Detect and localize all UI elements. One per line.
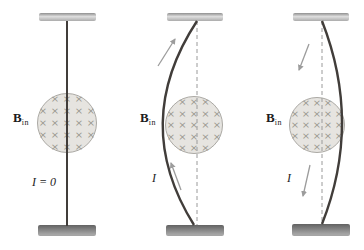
field-label-left: Bin [13, 111, 29, 127]
current-label-down: I [287, 172, 291, 184]
wires-overlay [0, 0, 364, 250]
wire-bowed-right [322, 21, 342, 224]
wire-bowed-left [163, 21, 197, 225]
field-label-B: B [13, 110, 22, 125]
figure-canvas: ××××××××××××××××××××× ××××××××××××××××××… [0, 0, 364, 250]
field-label-sub: in [275, 118, 282, 127]
current-label-up: I [152, 172, 156, 184]
field-label-sub: in [22, 118, 29, 127]
field-label-middle: Bin [140, 111, 156, 127]
current-arrow-up-bottom [171, 163, 181, 190]
current-label-zero: I = 0 [32, 176, 56, 188]
field-label-B: B [266, 110, 275, 125]
current-arrow-up-top [158, 39, 175, 66]
current-arrow-down-bottom [303, 165, 310, 196]
field-label-sub: in [149, 118, 156, 127]
current-arrow-down-top [299, 44, 309, 70]
field-label-B: B [140, 110, 149, 125]
field-label-right: Bin [266, 111, 282, 127]
